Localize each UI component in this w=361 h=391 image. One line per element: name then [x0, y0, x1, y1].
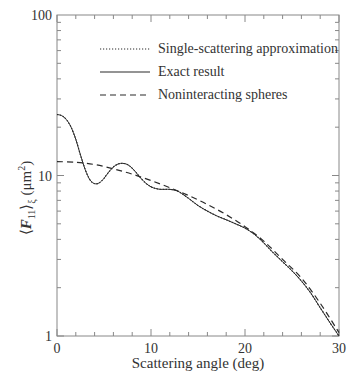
- legend-label: Single-scattering approximation: [158, 41, 338, 56]
- series-dotted: [57, 114, 339, 336]
- series-dashed: [57, 162, 339, 333]
- x-tick-label: 20: [238, 341, 252, 356]
- legend: Single-scattering approximationExact res…: [100, 41, 338, 102]
- y-tick-label: 1: [45, 329, 52, 344]
- series-solid: [57, 114, 339, 336]
- y-axis-title: ⟨F11⟩ξ (μm2): [16, 161, 38, 236]
- legend-label: Noninteracting spheres: [158, 87, 287, 102]
- legend-label: Exact result: [158, 64, 225, 79]
- series-layer: [57, 114, 339, 336]
- y-tick-label: 100: [31, 8, 52, 23]
- chart: 110100 0102030 Single-scattering approxi…: [0, 0, 361, 391]
- x-tick-label: 10: [144, 341, 158, 356]
- y-tick-label: 10: [38, 169, 52, 184]
- x-tick-label: 0: [54, 341, 61, 356]
- x-axis-title: Scattering angle (deg): [132, 355, 264, 372]
- svg-text:⟨F11⟩ξ (μm2): ⟨F11⟩ξ (μm2): [16, 161, 38, 236]
- y-axis-ticks: 110100: [31, 8, 339, 344]
- x-tick-label: 30: [332, 341, 346, 356]
